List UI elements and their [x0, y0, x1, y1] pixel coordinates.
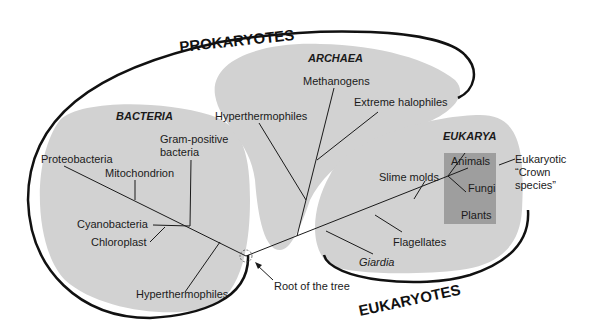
gram-positive-label-line2: bacteria [160, 146, 199, 158]
root-arrow-head [255, 262, 262, 269]
eukaryotes-title: EUKARYOTES [357, 281, 462, 319]
chloroplast-label: Chloroplast [91, 236, 147, 248]
archaea-label: ARCHAEA [308, 52, 363, 64]
plants-label: Plants [461, 209, 492, 221]
proteobacteria-label: Proteobacteria [41, 153, 113, 165]
flagellates-label: Flagellates [393, 236, 446, 248]
mitochondrion-label: Mitochondrion [105, 167, 174, 179]
cyanobacteria-label: Cyanobacteria [77, 218, 148, 230]
methanogens-label: Methanogens [303, 75, 370, 87]
root-of-tree-label: Root of the tree [274, 280, 350, 292]
archaea-hyperthermophiles-label: Hyperthermophiles [215, 110, 307, 122]
eukarya-label: EUKARYA [443, 130, 496, 142]
extreme-halophiles-label: Extreme halophiles [354, 96, 448, 108]
crown-species-annotation-line3: species” [515, 179, 556, 191]
crown-species-annotation-line1: Eukaryotic [515, 153, 566, 165]
giardia-label: Giardia [359, 256, 394, 268]
fungi-label: Fungi [468, 182, 496, 194]
crown-species-annotation-line2: “Crown [515, 166, 550, 178]
slime-molds-label: Slime molds [379, 171, 439, 183]
tree-of-life-diagram: PROKARYOTES EUKARYOTES [0, 0, 591, 336]
bacteria-label: BACTERIA [116, 110, 173, 122]
bacteria-hyperthermophiles-label: Hyperthermophiles [136, 288, 228, 300]
gram-positive-label-line1: Gram-positive [160, 133, 228, 145]
animals-label: Animals [451, 155, 490, 167]
